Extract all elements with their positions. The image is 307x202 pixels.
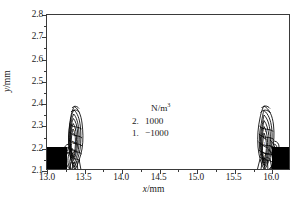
- figure-container: 2 1 2: [0, 0, 307, 202]
- svg-text:1: 1: [264, 142, 266, 146]
- x-tick-minor: [178, 169, 179, 172]
- right-contour-cluster: 2 1 2: [245, 104, 285, 169]
- legend-entry-2: 2.1000: [132, 115, 170, 128]
- x-tick-label: 13.5: [76, 172, 92, 182]
- y-tick-minor: [44, 160, 47, 161]
- svg-text:2: 2: [265, 129, 267, 133]
- y-axis-title: y/mm: [2, 70, 12, 92]
- svg-text:2: 2: [75, 128, 77, 132]
- plot-frame: 2 1 2: [46, 14, 290, 170]
- x-tick-label: 14.5: [151, 172, 167, 182]
- y-tick-minor: [44, 26, 47, 27]
- legend-units-exponent: 3: [167, 101, 170, 108]
- y-tick-label: 2.6: [32, 54, 43, 64]
- legend-entry-index: 2.: [132, 115, 145, 128]
- y-axis-title-unit: /mm: [2, 70, 12, 87]
- legend-entry-value: 1000: [145, 116, 163, 126]
- x-tick-minor: [254, 169, 255, 172]
- y-tick-label: 2.3: [32, 120, 43, 130]
- y-tick-label: 2.8: [32, 9, 43, 19]
- y-tick-minor: [44, 138, 47, 139]
- legend-entry-1: 1.−1000: [132, 127, 170, 140]
- y-tick-label: 2.4: [32, 98, 43, 108]
- x-tick-label: 15.5: [226, 172, 242, 182]
- x-tick-label: 14.0: [113, 172, 129, 182]
- x-tick-label: 13.0: [39, 172, 55, 182]
- plot-area: 2 1 2: [47, 15, 289, 169]
- legend-units-text: N/m: [151, 103, 167, 113]
- y-tick-label: 2.7: [32, 31, 43, 41]
- y-tick-minor: [44, 71, 47, 72]
- svg-text:2: 2: [265, 153, 267, 157]
- x-tick-label: 15.0: [188, 172, 204, 182]
- y-tick-minor: [44, 115, 47, 116]
- y-axis-title-symbol: y: [2, 88, 12, 92]
- x-axis-title-unit: /mm: [147, 184, 164, 194]
- x-tick-minor: [103, 169, 104, 172]
- x-tick-minor: [141, 169, 142, 172]
- svg-text:2: 2: [74, 152, 76, 156]
- y-tick-minor: [44, 48, 47, 49]
- x-tick-minor: [66, 169, 67, 172]
- legend-entry-value: −1000: [145, 128, 169, 138]
- legend-entry-index: 1.: [132, 127, 145, 140]
- y-tick-minor: [44, 93, 47, 94]
- y-tick-label: 2.5: [32, 76, 43, 86]
- legend: N/m3 2.1000 1.−1000: [132, 99, 170, 140]
- svg-text:1: 1: [73, 141, 75, 145]
- x-axis-title: x/mm: [0, 184, 307, 194]
- y-tick-label: 2.2: [32, 143, 43, 153]
- left-contour-cluster: 2 1 2: [59, 104, 93, 169]
- legend-units: N/m3: [132, 99, 170, 115]
- x-tick-minor: [216, 169, 217, 172]
- x-tick-label: 16.0: [263, 172, 279, 182]
